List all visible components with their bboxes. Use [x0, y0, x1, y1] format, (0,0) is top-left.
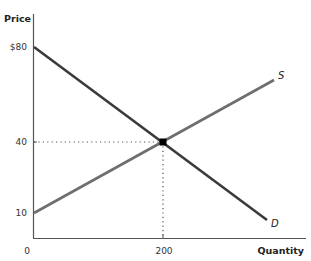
- x-tick-label-200: 200: [155, 246, 172, 256]
- y-axis-title: Price: [4, 13, 31, 24]
- supply-label: S: [278, 70, 285, 81]
- supply-curve: [34, 80, 274, 213]
- x-axis-title: Quantity: [257, 245, 304, 256]
- y-tick-label-80: $80: [10, 42, 27, 52]
- y-tick-label-40: 40: [16, 137, 28, 147]
- y-tick-label-10: 10: [16, 208, 28, 218]
- supply-demand-chart: Price Quantity $80 40 10 0 200 S D: [0, 0, 311, 261]
- demand-label: D: [271, 218, 279, 229]
- origin-label: 0: [24, 246, 30, 256]
- equilibrium-point: [160, 139, 167, 146]
